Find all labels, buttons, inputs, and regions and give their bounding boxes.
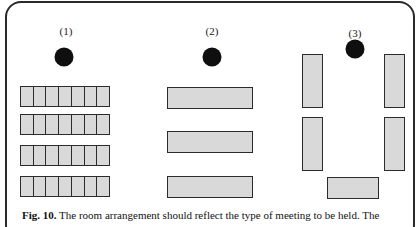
seat-row [20, 145, 110, 166]
seat [97, 146, 109, 165]
seat [21, 87, 34, 106]
seat [46, 115, 59, 134]
figure-caption: Fig. 10. The room arrangement should ref… [22, 209, 379, 221]
seat [46, 87, 59, 106]
seat [21, 146, 34, 165]
seat [59, 115, 72, 134]
seat [34, 146, 47, 165]
seat [85, 177, 98, 196]
seat [59, 177, 72, 196]
seat [97, 115, 109, 134]
seat [34, 177, 47, 196]
seat [21, 177, 34, 196]
seat [59, 87, 72, 106]
caption-text: The room arrangement should reflect the … [57, 209, 380, 221]
layout-label-3: (3) [349, 27, 362, 39]
table [384, 54, 405, 108]
seat [85, 146, 98, 165]
seat-row [20, 86, 110, 107]
speaker-dot-icon [203, 48, 222, 67]
seat [72, 87, 85, 106]
seat [72, 177, 85, 196]
seat-row [20, 176, 110, 197]
table [384, 117, 405, 171]
seat [85, 87, 98, 106]
speaker-dot-icon [55, 48, 74, 67]
table [167, 176, 253, 198]
seat [46, 146, 59, 165]
seat [34, 87, 47, 106]
seat [34, 115, 47, 134]
table [302, 54, 323, 108]
seat [72, 146, 85, 165]
caption-prefix: Fig. 10. [22, 209, 57, 221]
seat-row [20, 114, 110, 135]
table [327, 177, 379, 199]
speaker-dot-icon [346, 40, 365, 59]
table [167, 87, 253, 109]
seat [97, 177, 109, 196]
layout-label-2: (2) [206, 25, 219, 37]
table [167, 131, 253, 153]
seat [59, 146, 72, 165]
seat [72, 115, 85, 134]
table [302, 117, 323, 171]
seat [21, 115, 34, 134]
seat [85, 115, 98, 134]
seat [97, 87, 109, 106]
layout-label-1: (1) [60, 25, 73, 37]
seat [46, 177, 59, 196]
